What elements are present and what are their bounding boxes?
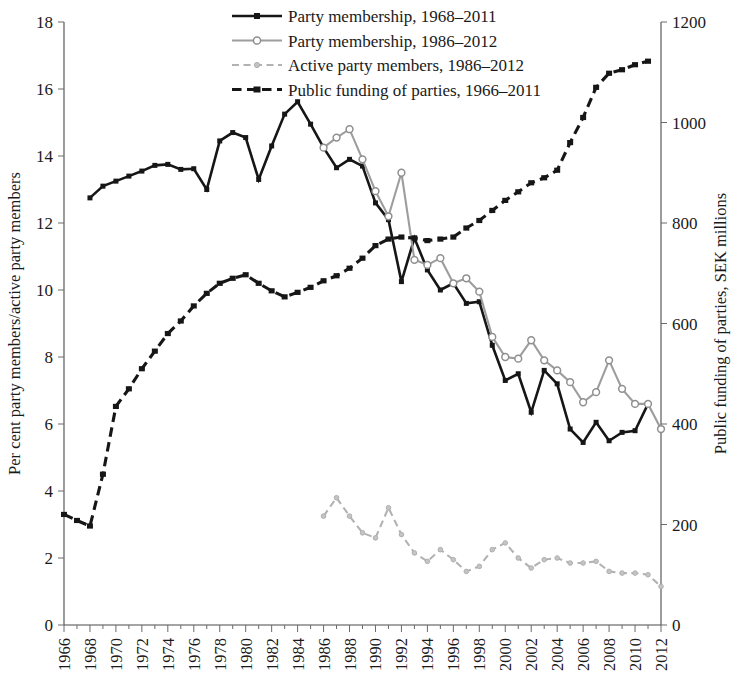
data-point [632, 62, 638, 67]
data-point [412, 551, 417, 556]
data-point [607, 569, 612, 574]
data-point [178, 318, 184, 323]
x-tick-label: 1998 [470, 638, 489, 671]
y-axis-left-ticks: 024681012141618 [36, 13, 64, 635]
y-tick-label: 12 [36, 214, 53, 233]
data-point [347, 266, 353, 271]
data-point [464, 301, 469, 306]
data-point [489, 334, 496, 341]
line-chart: 1966196819701972197419761978198019821984… [0, 0, 746, 680]
data-point [438, 288, 443, 293]
x-tick-label: 1984 [289, 638, 308, 671]
data-point [529, 410, 534, 415]
data-point [619, 385, 626, 392]
x-tick-label: 2002 [522, 638, 541, 671]
data-point [398, 234, 404, 239]
data-point [372, 243, 378, 248]
x-tick-label: 2000 [496, 638, 515, 671]
data-point [424, 261, 431, 268]
x-tick-label: 1976 [185, 638, 204, 671]
data-point [516, 556, 521, 561]
y-tick-label: 2 [45, 549, 54, 568]
data-point [411, 235, 417, 240]
data-point [568, 561, 573, 566]
y2-tick-label: 1000 [672, 114, 706, 133]
data-point [321, 278, 327, 283]
x-tick-label: 1972 [133, 638, 152, 671]
data-point [632, 401, 639, 408]
data-point [100, 472, 106, 477]
data-point [204, 187, 209, 192]
data-point [295, 290, 301, 295]
data-point [126, 386, 132, 391]
data-point [346, 126, 353, 133]
data-point [476, 218, 482, 223]
data-point [347, 157, 352, 162]
y2-tick-label: 200 [672, 516, 698, 535]
data-point [515, 189, 521, 194]
data-point [645, 401, 652, 408]
y-axis-left-title: Per cent party members/active party memb… [5, 172, 24, 475]
data-point [555, 556, 560, 561]
data-point [451, 557, 456, 562]
y-tick-label: 6 [45, 415, 54, 434]
x-tick-label: 1996 [444, 638, 463, 671]
data-point [152, 349, 158, 354]
data-point [347, 514, 352, 519]
x-tick-label: 1990 [366, 638, 385, 671]
data-point [633, 428, 638, 433]
data-point [438, 547, 443, 552]
data-point [243, 135, 248, 140]
data-point [74, 518, 80, 523]
x-tick-label: 1966 [55, 638, 74, 671]
data-point [269, 288, 275, 293]
data-point [398, 169, 405, 176]
data-point [580, 115, 586, 120]
x-tick-label: 1994 [418, 638, 437, 671]
x-tick-label: 1968 [81, 638, 100, 671]
data-point [554, 367, 561, 374]
y-axis-right-title: Public funding of parties, SEK millions [711, 193, 730, 454]
data-point [437, 236, 443, 241]
legend-label: Active party members, 1986–2012 [288, 56, 524, 75]
data-point [607, 438, 612, 443]
data-point [282, 112, 287, 117]
x-tick-label: 2004 [548, 638, 567, 671]
data-point [477, 564, 482, 569]
data-point [463, 275, 470, 282]
legend-marker [254, 87, 261, 93]
data-point [360, 256, 366, 261]
x-tick-label: 1978 [211, 638, 230, 671]
data-point [243, 272, 249, 277]
data-point [645, 59, 651, 64]
x-tick-label: 1980 [237, 638, 256, 671]
data-point [139, 366, 145, 371]
data-point [334, 273, 340, 278]
data-point [581, 561, 586, 566]
data-point [113, 404, 119, 409]
legend-marker [254, 13, 260, 19]
data-point [385, 213, 392, 220]
x-tick-label: 1974 [159, 638, 178, 671]
series-party_membership_1968_2011 [87, 99, 650, 445]
legend-label: Party membership, 1968–2011 [288, 7, 497, 26]
data-point [359, 156, 366, 163]
x-tick-label: 1988 [341, 638, 360, 671]
data-point [178, 167, 183, 172]
data-point [437, 255, 444, 262]
data-point [230, 276, 236, 281]
x-tick-label: 2008 [600, 638, 619, 671]
series-line-party_membership_1986_2012 [324, 129, 661, 429]
data-point [620, 571, 625, 576]
data-point [450, 280, 457, 287]
data-point [476, 288, 483, 295]
data-point [580, 399, 587, 406]
data-point [606, 357, 613, 364]
legend-item-0: Party membership, 1968–2011 [232, 7, 497, 26]
data-point [424, 238, 430, 243]
legend-item-2: Active party members, 1986–2012 [232, 56, 524, 75]
x-axis-ticks: 1966196819701972197419761978198019821984… [55, 625, 671, 671]
data-point [61, 512, 67, 517]
data-point [541, 357, 548, 364]
data-point [165, 162, 170, 167]
